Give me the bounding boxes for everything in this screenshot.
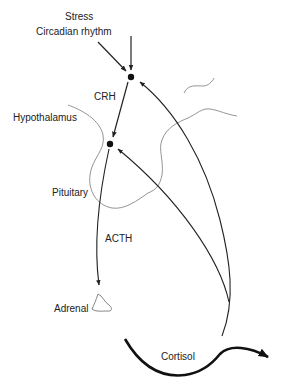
circadian-arrow bbox=[98, 42, 126, 71]
stress-label: Stress bbox=[65, 12, 93, 22]
crh-label: CRH bbox=[94, 92, 116, 102]
hpa-axis-diagram bbox=[0, 0, 281, 385]
brain-outline-small bbox=[184, 78, 214, 93]
adrenal-label: Adrenal bbox=[54, 304, 88, 314]
feedback-to-pituitary bbox=[118, 149, 229, 302]
acth-arrow bbox=[97, 149, 109, 285]
circadian-rhythm-label: Circadian rhythm bbox=[36, 27, 112, 37]
pituitary-label: Pituitary bbox=[52, 188, 88, 198]
hypothalamus-label: Hypothalamus bbox=[13, 113, 77, 123]
feedback-to-hypothalamus bbox=[140, 82, 230, 336]
adrenal-gland-shape bbox=[92, 294, 111, 311]
pituitary-node bbox=[107, 141, 113, 147]
cortisol-label: Cortisol bbox=[161, 352, 195, 362]
cortisol-output-curve bbox=[125, 339, 268, 375]
hypothalamus-node bbox=[128, 74, 134, 80]
acth-label: ACTH bbox=[105, 234, 132, 244]
